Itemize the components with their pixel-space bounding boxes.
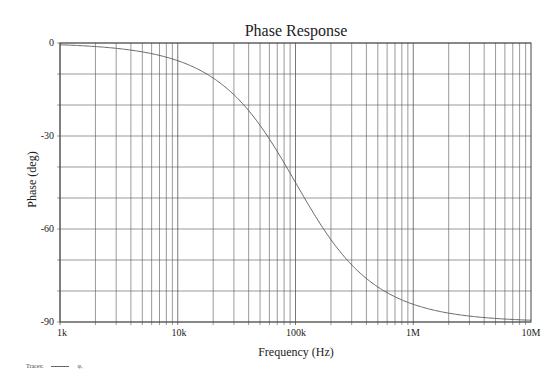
legend-line-swatch xyxy=(51,366,69,367)
y-tick-0: 0 xyxy=(14,37,54,48)
y-tick-minus30: -30 xyxy=(14,130,54,141)
x-tick-100k: 100k xyxy=(276,327,316,338)
x-tick-1M: 1M xyxy=(393,327,433,338)
y-tick-minus60: -60 xyxy=(14,223,54,234)
x-tick-10k: 10k xyxy=(159,327,199,338)
x-tick-1k: 1k xyxy=(42,327,82,338)
legend: Traces: φ, xyxy=(26,363,82,369)
legend-prefix: Traces: xyxy=(26,363,43,369)
x-tick-10M: 10M xyxy=(511,327,551,338)
x-axis-label: Frequency (Hz) xyxy=(226,345,366,360)
chart-title: Phase Response xyxy=(0,22,559,40)
grid-lines xyxy=(57,43,531,325)
y-axis-label: Phase (deg) xyxy=(25,140,40,220)
y-tick-minus90: -90 xyxy=(14,316,54,327)
legend-entry-phi: φ, xyxy=(77,363,82,369)
